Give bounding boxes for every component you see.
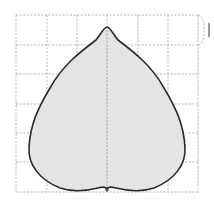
leaf-shape (29, 27, 185, 191)
bracket-icon (198, 15, 204, 45)
leaf-grid-diagram (0, 0, 214, 206)
